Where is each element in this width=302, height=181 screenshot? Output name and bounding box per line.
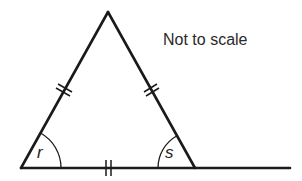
triangle-diagram (0, 0, 302, 181)
left-side (21, 12, 108, 168)
not-to-scale-note: Not to scale (163, 31, 247, 49)
angle-label-r: r (37, 143, 43, 163)
angle-label-s: s (165, 143, 174, 163)
angle-arc-r (41, 133, 62, 168)
